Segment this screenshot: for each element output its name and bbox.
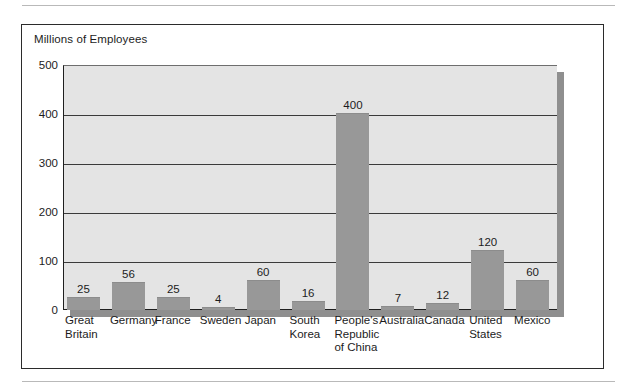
y-tick-label-100: 100 <box>14 255 58 267</box>
bar-slot: 16 <box>288 65 333 310</box>
bar-value-label: 7 <box>377 292 418 304</box>
bar-slot: 60 <box>512 65 557 310</box>
bar-slot: 60 <box>243 65 288 310</box>
x-label-line: Mexico <box>514 314 550 328</box>
bar-slot: 4 <box>198 65 243 310</box>
x-category-label: France <box>155 314 191 328</box>
x-label-line: Korea <box>290 328 321 342</box>
bar-slot: 400 <box>332 65 377 310</box>
y-tick-label-500: 500 <box>14 59 58 71</box>
bar[interactable] <box>471 250 504 310</box>
bar[interactable] <box>292 301 325 310</box>
x-category-label: Germany <box>110 314 157 328</box>
y-tick-label-200: 200 <box>14 206 58 218</box>
x-label-line: Great <box>65 314 98 328</box>
bar[interactable] <box>202 307 235 310</box>
y-tick-label-0: 0 <box>14 304 58 316</box>
bar[interactable] <box>336 113 369 310</box>
bar-slot: 120 <box>467 65 512 310</box>
bar-value-label: 56 <box>108 268 149 280</box>
x-category-label: People'sRepublicof China <box>334 314 379 355</box>
bar-value-label: 16 <box>288 287 329 299</box>
x-label-line: Japan <box>245 314 276 328</box>
x-category-label: Canada <box>424 314 464 328</box>
y-axis-tick-labels: 0100200300400500 <box>12 65 58 310</box>
x-category-label: Japan <box>245 314 276 328</box>
page-rule-top <box>22 5 615 6</box>
bar[interactable] <box>247 280 280 310</box>
x-label-line: Germany <box>110 314 157 328</box>
bar-value-label: 25 <box>153 283 194 295</box>
bar-value-label: 120 <box>467 236 508 248</box>
bar-slot: 25 <box>63 65 108 310</box>
chart-title: Millions of Employees <box>34 33 147 45</box>
x-label-line: Republic <box>334 328 379 342</box>
x-label-line: People's <box>334 314 379 328</box>
x-category-label: Mexico <box>514 314 550 328</box>
x-label-line: Australia <box>379 314 424 328</box>
x-category-label: SouthKorea <box>290 314 321 341</box>
x-axis-category-labels: GreatBritainGermanyFranceSwedenJapanSout… <box>63 314 573 366</box>
x-label-line: States <box>469 328 502 342</box>
bar-value-label: 60 <box>512 266 553 278</box>
x-label-line: France <box>155 314 191 328</box>
bar-value-label: 12 <box>422 289 463 301</box>
bar-slot: 25 <box>153 65 198 310</box>
bar-value-label: 4 <box>198 293 239 305</box>
page-rule-bottom <box>22 381 615 382</box>
bar-slot: 56 <box>108 65 153 310</box>
bar-slot: 12 <box>422 65 467 310</box>
y-tick-label-400: 400 <box>14 108 58 120</box>
x-category-label: UnitedStates <box>469 314 502 341</box>
x-label-line: Sweden <box>200 314 242 328</box>
bar[interactable] <box>516 280 549 310</box>
bar-value-label: 25 <box>63 283 104 295</box>
x-category-label: Australia <box>379 314 424 328</box>
y-tick-label-300: 300 <box>14 157 58 169</box>
x-category-label: Sweden <box>200 314 242 328</box>
bar-series: 2556254601640071212060 <box>63 65 557 310</box>
x-label-line: Canada <box>424 314 464 328</box>
bar[interactable] <box>112 282 145 310</box>
x-label-line: United <box>469 314 502 328</box>
x-label-line: South <box>290 314 321 328</box>
bar-slot: 7 <box>377 65 422 310</box>
x-label-line: of China <box>334 341 379 355</box>
x-category-label: GreatBritain <box>65 314 98 341</box>
bar-value-label: 400 <box>332 99 373 111</box>
bar-value-label: 60 <box>243 266 284 278</box>
bar[interactable] <box>67 297 100 310</box>
bar[interactable] <box>426 303 459 310</box>
x-label-line: Britain <box>65 328 98 342</box>
bar[interactable] <box>381 306 414 310</box>
bar[interactable] <box>157 297 190 310</box>
